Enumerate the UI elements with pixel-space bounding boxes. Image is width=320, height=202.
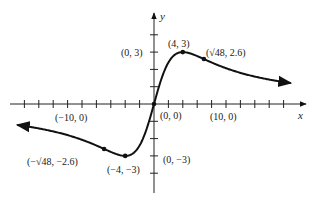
label-y-neg3: (0, −3) [163,155,190,165]
label-min: (−4, −3) [107,165,140,175]
label-x-pos10: (10, 0) [210,112,237,122]
label-inflection-pos: (√48, 2.6) [206,48,246,58]
label-origin: (0, 0) [160,111,182,121]
label-max: (4, 3) [168,39,190,49]
label-y-pos3: (0, 3) [121,48,143,58]
point-marker [181,50,186,55]
point-marker [152,102,157,107]
x-axis-label: x [298,110,303,121]
plot-area [0,0,320,202]
label-x-neg10: (−10, 0) [55,113,87,123]
chart: y x (0, 0) (0, 3) (0, −3) (10, 0) (−10, … [0,0,320,202]
point-marker [123,154,128,159]
label-inflection-neg: (−√48, −2.6) [27,157,78,167]
y-axis-label: y [160,11,165,22]
point-marker [102,147,107,152]
